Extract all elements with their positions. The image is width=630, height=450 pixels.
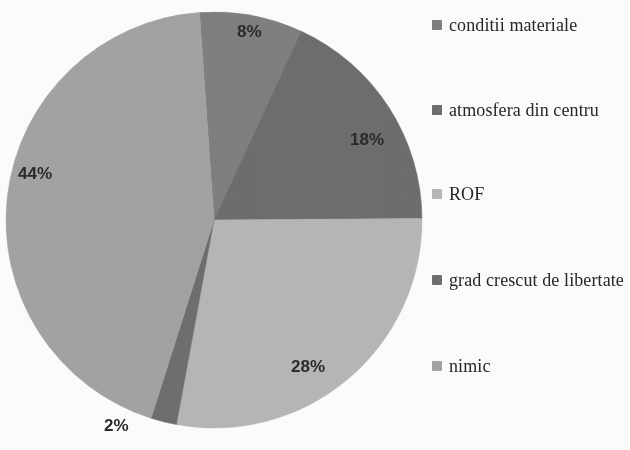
pie-slice-group bbox=[6, 12, 422, 428]
legend-swatch-icon bbox=[432, 275, 442, 285]
slice-label-atmosfera-din-centru: 18% bbox=[350, 130, 384, 150]
legend-item-nimic[interactable]: nimic bbox=[432, 355, 628, 377]
legend-label: atmosfera din centru bbox=[449, 99, 599, 121]
legend-label: ROF bbox=[449, 183, 484, 205]
slice-label-rof: 28% bbox=[291, 357, 325, 377]
pie-chart-svg bbox=[0, 0, 430, 450]
slice-label-conditii-materiale: 8% bbox=[237, 22, 262, 42]
slice-label-nimic: 44% bbox=[18, 164, 52, 184]
pie-chart-figure: 8% 18% 28% 2% 44% conditii materiale atm… bbox=[0, 0, 630, 450]
chart-plot-area: 8% 18% 28% 2% 44% bbox=[0, 0, 430, 450]
legend-label: conditii materiale bbox=[449, 14, 577, 36]
legend-label: grad crescut de libertate bbox=[449, 269, 624, 291]
legend-swatch-icon bbox=[432, 105, 442, 115]
slice-label-grad-crescut-de-libertate: 2% bbox=[104, 416, 129, 436]
legend-label: nimic bbox=[449, 355, 491, 377]
legend-swatch-icon bbox=[432, 20, 442, 30]
legend-item-grad-crescut-de-libertate[interactable]: grad crescut de libertate bbox=[432, 269, 628, 291]
legend-swatch-icon bbox=[432, 361, 442, 371]
chart-legend: conditii materiale atmosfera din centru … bbox=[430, 0, 630, 450]
pie-slice[interactable] bbox=[176, 219, 422, 428]
legend-swatch-icon bbox=[432, 189, 442, 199]
legend-item-rof[interactable]: ROF bbox=[432, 183, 628, 205]
legend-item-atmosfera-din-centru[interactable]: atmosfera din centru bbox=[432, 99, 628, 121]
legend-item-conditii-materiale[interactable]: conditii materiale bbox=[432, 14, 628, 36]
